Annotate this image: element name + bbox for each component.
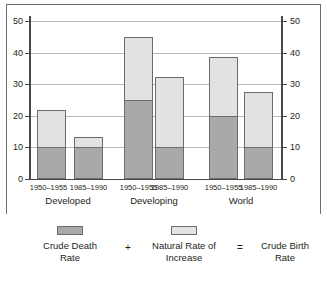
bar-world-1985-1990[interactable] [244,92,273,179]
left-axis-spine [29,16,31,180]
legend-label-crude-birth-rate-line2: Rate [246,252,324,264]
tick-left-50 [25,21,29,22]
chart-legend: Crude Death Rate + Natural Rate of Incre… [0,226,327,281]
bar-world-1950-1955[interactable] [209,57,238,179]
bar-segment-natural-rate [155,77,184,148]
legend-operator-plus: + [120,242,136,253]
ylabel-right-20: 20 [290,112,310,121]
bar-developed-1985-1990[interactable] [74,137,103,179]
period-label-world-1985-1990: 1985–1990 [233,183,284,192]
x-axis-labels: 1950–1955 1985–1990 Developed 1950–1955 … [31,183,281,217]
tick-right-30 [283,84,287,85]
bar-segment-crude-death [124,100,153,179]
tick-left-30 [25,84,29,85]
tick-right-20 [283,116,287,117]
ylabel-right-30: 30 [290,80,310,89]
legend-label-natural-rate-line2: Increase [136,252,232,264]
ylabel-right-50: 50 [290,17,310,26]
period-label-developing-1985-1990: 1985–1990 [144,183,195,192]
bar-segment-natural-rate [209,57,238,116]
right-axis-spine [281,16,283,180]
ylabel-right-40: 40 [290,49,310,58]
legend-swatch-natural-rate-of-increase [171,226,197,235]
tick-left-0 [25,179,29,180]
chart-figure: 50 40 30 20 10 0 50 40 30 20 10 0 [0,0,327,281]
ylabel-left-50: 50 [3,17,23,26]
legend-label-natural-rate-line1: Natural Rate of [136,240,232,252]
gridline-40 [31,53,281,54]
gridline-50 [31,21,281,22]
legend-label-crude-death-rate-line1: Crude Death [22,240,118,252]
ylabel-left-40: 40 [3,49,23,58]
tick-right-0 [283,179,287,180]
ylabel-right-10: 10 [290,143,310,152]
bar-developed-1950-1955[interactable] [37,109,66,179]
ylabel-left-0: 0 [3,175,23,184]
bar-segment-natural-rate [37,110,66,149]
ylabel-right-0: 0 [290,175,310,184]
period-label-developed-1985-1990: 1985–1990 [63,183,114,192]
bar-developing-1950-1955[interactable] [124,37,153,179]
ylabel-left-30: 30 [3,80,23,89]
legend-label-crude-birth-rate-line1: Crude Birth [246,240,324,252]
tick-right-50 [283,21,287,22]
legend-swatch-crude-death-rate [57,226,83,235]
bar-segment-crude-death [74,147,103,179]
legend-entry-crude-birth-rate[interactable]: Crude Birth Rate [246,226,324,263]
tick-left-10 [25,147,29,148]
bar-segment-crude-death [209,116,238,179]
bar-segment-crude-death [37,147,66,179]
ylabel-left-20: 20 [3,112,23,121]
bar-segment-natural-rate [244,92,273,149]
legend-label-crude-death-rate-line2: Rate [22,252,118,264]
bar-segment-crude-death [155,147,184,179]
ylabel-left-10: 10 [3,143,23,152]
group-label-world: World [206,195,276,206]
tick-right-10 [283,147,287,148]
group-label-developing: Developing [119,195,189,206]
legend-entry-natural-rate-of-increase[interactable]: Natural Rate of Increase [136,226,232,263]
tick-left-20 [25,116,29,117]
tick-right-40 [283,53,287,54]
gridline-0 [31,179,281,180]
legend-entry-crude-death-rate[interactable]: Crude Death Rate [22,226,118,263]
plot-area: 50 40 30 20 10 0 50 40 30 20 10 0 [31,21,281,179]
tick-left-40 [25,53,29,54]
bar-developing-1985-1990[interactable] [155,77,184,179]
group-label-developed: Developed [33,195,103,206]
bar-segment-crude-death [244,147,273,179]
bar-segment-natural-rate [124,37,153,101]
